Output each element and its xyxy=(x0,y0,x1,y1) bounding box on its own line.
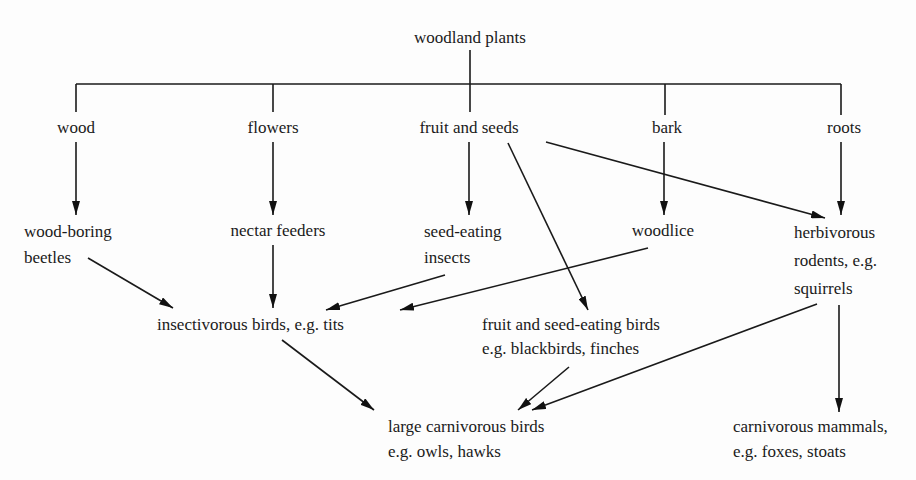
node-label: beetles xyxy=(24,245,112,271)
node-label: seed-eating xyxy=(424,219,501,245)
node-seed-eating-insects: seed-eating insects xyxy=(424,219,501,271)
node-label: wood xyxy=(57,116,95,139)
node-bark: bark xyxy=(652,116,682,139)
node-label: herbivorous xyxy=(794,219,877,247)
node-label: woodland plants xyxy=(414,26,526,49)
node-label: woodlice xyxy=(632,219,694,242)
node-label: insectivorous birds, e.g. tits xyxy=(157,313,344,336)
node-label: e.g. foxes, stoats xyxy=(733,439,888,464)
node-fruit-seed-eating-birds: fruit and seed-eating birds e.g. blackbi… xyxy=(482,313,660,361)
node-nectar-feeders: nectar feeders xyxy=(231,219,326,242)
node-wood: wood xyxy=(57,116,95,139)
node-label: flowers xyxy=(248,116,299,139)
node-label: roots xyxy=(827,116,861,139)
node-fruit-and-seeds: fruit and seeds xyxy=(419,116,518,139)
food-web-diagram: woodland plants wood flowers fruit and s… xyxy=(0,0,916,480)
node-large-carnivorous-birds: large carnivorous birds e.g. owls, hawks xyxy=(388,414,544,464)
node-label: e.g. owls, hawks xyxy=(388,439,544,464)
node-label: wood-boring xyxy=(24,219,112,245)
node-herbivorous-rodents: herbivorous rodents, e.g. squirrels xyxy=(794,219,877,303)
node-label: carnivorous mammals, xyxy=(733,414,888,439)
node-flowers: flowers xyxy=(248,116,299,139)
node-label: bark xyxy=(652,116,682,139)
node-label: insects xyxy=(424,245,501,271)
node-label: large carnivorous birds xyxy=(388,414,544,439)
node-insectivorous-birds: insectivorous birds, e.g. tits xyxy=(157,313,344,336)
node-label: nectar feeders xyxy=(231,219,326,242)
node-label: rodents, e.g. xyxy=(794,247,877,275)
node-label: fruit and seed-eating birds xyxy=(482,313,660,337)
node-label: squirrels xyxy=(794,275,877,303)
node-woodlice: woodlice xyxy=(632,219,694,242)
node-label: e.g. blackbirds, finches xyxy=(482,337,660,361)
node-wood-boring-beetles: wood-boring beetles xyxy=(24,219,112,271)
node-woodland-plants: woodland plants xyxy=(414,26,526,49)
node-carnivorous-mammals: carnivorous mammals, e.g. foxes, stoats xyxy=(733,414,888,464)
node-roots: roots xyxy=(827,116,861,139)
node-label: fruit and seeds xyxy=(419,116,518,139)
